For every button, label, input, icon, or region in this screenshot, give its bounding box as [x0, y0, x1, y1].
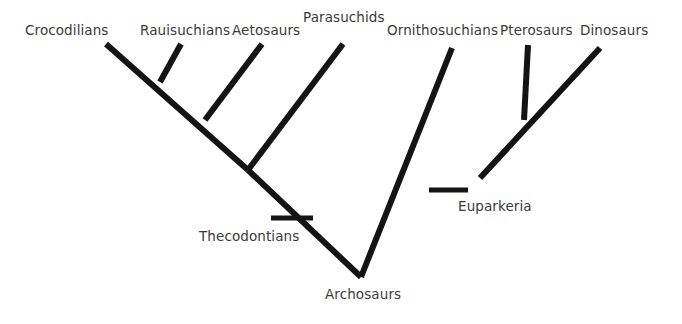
branch-group [106, 44, 600, 277]
tip-label-parasuchids: Parasuchids [303, 11, 385, 25]
crocodylia-stem [248, 170, 361, 277]
pterosaurs-branch [524, 45, 528, 120]
dinosaurs-branch [480, 48, 600, 178]
tip-label-dinosaurs: Dinosaurs [580, 24, 648, 38]
node-label-euparkeria: Euparkeria [458, 200, 532, 214]
parasuchids-branch [248, 44, 343, 170]
ornithosuchians-branch [361, 48, 452, 277]
crocodilians-branch [106, 44, 248, 170]
tip-label-pterosaurs: Pterosaurs [500, 24, 573, 38]
rauisuchians-branch [160, 44, 181, 82]
node-label-archosaurs: Archosaurs [325, 288, 401, 302]
tick-mark-group [271, 190, 468, 218]
tip-label-ornithosuchians: Ornithosuchians [387, 24, 498, 38]
cladogram-diagram: CrocodiliansRauisuchiansAetosaursParasuc… [0, 0, 682, 324]
aetosaurs-branch [205, 44, 262, 120]
cladogram-svg [0, 0, 682, 324]
tip-label-crocodilians: Crocodilians [25, 24, 109, 38]
tip-label-rauisuchians: Rauisuchians [140, 24, 230, 38]
node-label-thecodontians: Thecodontians [199, 230, 299, 244]
tip-label-aetosaurs: Aetosaurs [232, 24, 300, 38]
